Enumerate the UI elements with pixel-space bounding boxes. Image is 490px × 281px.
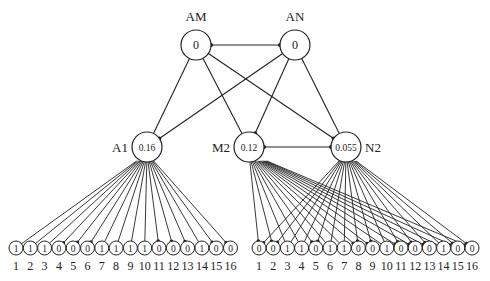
node-value: 0.16 — [139, 143, 156, 153]
leaf-label: 5 — [70, 259, 76, 273]
node-am: 0AM — [181, 9, 211, 60]
node-n2: 0.055N2 — [331, 132, 381, 162]
leaf-left-9: 19 — [123, 241, 137, 273]
node-label: AN — [286, 9, 305, 24]
edge-am-a1 — [153, 59, 189, 134]
leaf-edge-a1-left-16 — [154, 161, 226, 243]
leaf-left-4: 04 — [52, 241, 66, 273]
leaf-edge-n2-right-11 — [350, 161, 397, 242]
leaf-label: 8 — [355, 259, 361, 273]
leaf-label: 15 — [452, 259, 464, 273]
leaf-edge-a1-left-11 — [148, 161, 158, 241]
leaf-label: 2 — [27, 259, 33, 273]
leaf-value: 0 — [57, 244, 62, 254]
node-label: AM — [186, 9, 207, 24]
leaf-label: 15 — [210, 259, 222, 273]
leaf-value: 1 — [14, 244, 19, 254]
leaf-left-2: 12 — [23, 241, 37, 273]
leaf-value: 0 — [228, 244, 233, 254]
leaf-edge-a1-left-1 — [22, 161, 137, 244]
leaf-left-8: 18 — [109, 241, 123, 273]
leaf-label: 2 — [270, 259, 276, 273]
leaf-left-12: 012 — [166, 241, 180, 273]
leaf-value: 1 — [28, 244, 33, 254]
leaf-left-10: 110 — [138, 241, 152, 273]
leaf-value: 1 — [328, 244, 333, 254]
leaf-edge-m2-right-8 — [258, 161, 354, 243]
leaf-right-11: 011 — [394, 241, 408, 273]
leaf-edge-m2-right-13 — [263, 161, 423, 245]
leaf-edge-n2-right-7 — [344, 161, 346, 241]
leaf-edge-a1-left-3 — [50, 161, 139, 243]
edge-an-n2 — [302, 58, 340, 133]
leaf-value: 1 — [142, 244, 147, 254]
leaf-label: 11 — [153, 259, 165, 273]
leaf-label: 5 — [313, 259, 319, 273]
leaf-left-6: 06 — [81, 241, 95, 273]
leaf-label: 4 — [299, 259, 305, 273]
leaf-right-15: 015 — [451, 241, 465, 273]
node-an: 0AN — [280, 9, 310, 60]
leaf-label: 6 — [85, 259, 91, 273]
leaf-value: 1 — [128, 244, 133, 254]
leaf-value: 0 — [413, 244, 418, 254]
leaf-right-12: 012 — [408, 241, 422, 273]
leaf-value: 0 — [214, 244, 219, 254]
leaf-left-5: 05 — [66, 241, 80, 273]
leaf-edge-n2-right-16 — [356, 161, 466, 244]
leaf-edge-a1-left-12 — [149, 161, 171, 241]
leaf-label: 1 — [256, 259, 262, 273]
leaf-left-13: 013 — [181, 241, 195, 273]
edge-am-n2 — [208, 53, 333, 138]
leaf-left-14: 114 — [195, 241, 209, 273]
leaf-value: 0 — [257, 244, 262, 254]
leaf-left-16: 016 — [224, 241, 238, 273]
leaf-label: 14 — [196, 259, 208, 273]
node-a1: 0.16A1 — [112, 132, 162, 162]
leaf-label: 10 — [139, 259, 151, 273]
leaf-label: 7 — [99, 259, 105, 273]
node-value: 0 — [193, 38, 199, 52]
leaf-right-9: 09 — [366, 241, 380, 273]
leaf-left-15: 015 — [209, 241, 223, 273]
leaf-value: 0 — [455, 244, 460, 254]
node-label: M2 — [212, 140, 230, 155]
node-label: N2 — [365, 140, 381, 155]
leaf-label: 10 — [381, 259, 393, 273]
leaf-value: 1 — [285, 244, 290, 254]
leaf-edge-a1-left-13 — [150, 161, 185, 242]
leaf-edge-n2-right-15 — [355, 161, 453, 243]
leaf-value: 0 — [313, 244, 318, 254]
leaf-value: 0 — [157, 244, 162, 254]
leaf-value: 1 — [114, 244, 119, 254]
leaf-label: 9 — [127, 259, 133, 273]
leaf-right-13: 013 — [422, 241, 436, 273]
leaf-right-7: 17 — [337, 241, 351, 273]
leaf-right-3: 13 — [280, 241, 294, 273]
leaf-right-5: 05 — [309, 241, 323, 273]
leaf-label: 3 — [42, 259, 48, 273]
leaf-value: 0 — [356, 244, 361, 254]
leaf-right-2: 02 — [266, 241, 280, 273]
leaf-edge-a1-left-9 — [132, 161, 146, 241]
leaf-value: 0 — [399, 244, 404, 254]
leaf-edge-a1-left-6 — [91, 161, 142, 242]
leaf-value: 1 — [384, 244, 389, 254]
node-m2: 0.12M2 — [212, 132, 264, 162]
leaf-value: 0 — [271, 244, 276, 254]
leaf-value: 0 — [370, 244, 375, 254]
leaf-value: 1 — [441, 244, 446, 254]
leaf-value: 1 — [342, 244, 347, 254]
leaf-right-16: 016 — [465, 241, 479, 273]
leaf-right-1: 01 — [252, 241, 266, 273]
leaf-value: 1 — [299, 244, 304, 254]
nodes-layer: 0AM0AN0.16A10.12M20.055N2111213040506171… — [9, 9, 479, 273]
node-label: A1 — [112, 140, 128, 155]
leaf-edge-a1-left-7 — [105, 161, 144, 242]
leaf-value: 0 — [470, 244, 475, 254]
leaf-label: 8 — [113, 259, 119, 273]
leaf-right-4: 14 — [295, 241, 309, 273]
leaf-left-3: 13 — [38, 241, 52, 273]
leaf-value: 1 — [200, 244, 205, 254]
leaf-label: 13 — [182, 259, 194, 273]
